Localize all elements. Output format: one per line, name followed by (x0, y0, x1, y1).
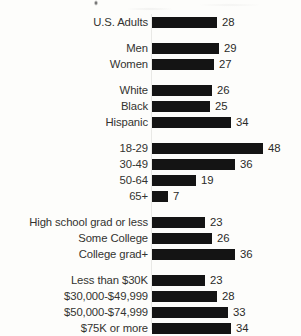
bar (152, 101, 210, 112)
bar-value-label: 7 (173, 190, 179, 203)
category-label: Hispanic (105, 116, 148, 129)
bar-row: College grad+36 (0, 249, 301, 261)
bar-row: U.S. Adults28 (0, 17, 301, 29)
category-label: $30,000-$49,999 (64, 290, 148, 303)
bar-row: 30-4936 (0, 159, 301, 171)
bar-row: Hispanic34 (0, 117, 301, 129)
bar (152, 291, 217, 302)
bar (152, 43, 219, 54)
category-label: Less than $30K (71, 274, 148, 287)
bar-row: High school grad or less23 (0, 217, 301, 229)
category-label: Women (110, 58, 148, 71)
category-label: $50,000-$74,999 (64, 306, 148, 319)
bar (152, 159, 235, 170)
category-label: $75K or more (81, 322, 148, 335)
bar-row: Less than $30K23 (0, 275, 301, 287)
category-label: Men (126, 42, 148, 55)
bar (152, 143, 263, 154)
bar-value-label: 19 (201, 174, 214, 187)
category-label: 50-64 (120, 174, 148, 187)
bar (152, 59, 214, 70)
category-label: 65+ (129, 190, 148, 203)
bar-row: $50,000-$74,99933 (0, 307, 301, 319)
bar (152, 275, 205, 286)
bar (152, 233, 212, 244)
bar-row: 65+7 (0, 191, 301, 203)
bar-row: Black25 (0, 101, 301, 113)
category-label: 18-29 (120, 142, 148, 155)
category-label: White (120, 84, 148, 97)
bar (152, 249, 235, 260)
bar-value-label: 48 (268, 142, 281, 155)
bar-row: White26 (0, 85, 301, 97)
bar-value-label: 26 (217, 232, 230, 245)
category-label: 30-49 (120, 158, 148, 171)
horizontal-bar-chart: U.S. Adults28Men29Women27White26Black25H… (0, 0, 301, 336)
bar-value-label: 28 (222, 290, 235, 303)
bar-value-label: 36 (240, 158, 253, 171)
bar-value-label: 25 (215, 100, 228, 113)
bar (152, 17, 217, 28)
bar-value-label: 27 (219, 58, 232, 71)
category-label: Some College (78, 232, 148, 245)
bar-value-label: 36 (240, 248, 253, 261)
bar-value-label: 34 (236, 116, 249, 129)
category-label: College grad+ (79, 248, 148, 261)
bar (152, 85, 212, 96)
category-label: U.S. Adults (93, 16, 148, 29)
category-label: High school grad or less (29, 216, 148, 229)
bar-value-label: 28 (222, 16, 235, 29)
bar (152, 175, 196, 186)
bar-value-label: 29 (224, 42, 237, 55)
category-label: Black (121, 100, 148, 113)
bar (152, 323, 231, 334)
bar-value-label: 23 (210, 216, 223, 229)
bar-value-label: 34 (236, 322, 249, 335)
bar (152, 191, 168, 202)
bar (152, 217, 205, 228)
bar-value-label: 23 (210, 274, 223, 287)
bar-row: Some College26 (0, 233, 301, 245)
bar-row: 18-2948 (0, 143, 301, 155)
bar-row: $30,000-$49,99928 (0, 291, 301, 303)
bar-row: Women27 (0, 59, 301, 71)
bar-row: Men29 (0, 43, 301, 55)
bar-value-label: 26 (217, 84, 230, 97)
bar-value-label: 33 (233, 306, 246, 319)
bar-row: $75K or more34 (0, 323, 301, 335)
bar-row: 50-6419 (0, 175, 301, 187)
bar (152, 117, 231, 128)
bar (152, 307, 228, 318)
